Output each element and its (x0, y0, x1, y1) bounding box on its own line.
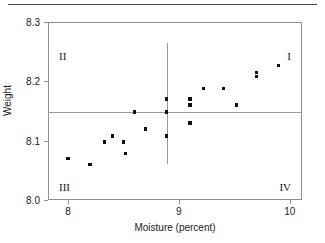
y-tick-8.0 (44, 200, 48, 201)
vertical-reference-line (167, 43, 168, 165)
horizontal-reference-line (48, 112, 302, 113)
quadrant-label-i: I (287, 50, 291, 62)
data-point (277, 64, 280, 67)
data-point (124, 152, 127, 155)
y-tick-8.2 (44, 81, 48, 82)
data-point (222, 87, 225, 90)
y-tick-label-8.3: 8.3 (8, 17, 40, 28)
x-tick-label-8: 8 (65, 206, 71, 217)
y-axis-title: Weight (2, 71, 13, 131)
x-tick-label-10: 10 (284, 206, 295, 217)
data-point (165, 134, 168, 137)
clipped-caption-text (30, 0, 270, 1)
data-point (122, 140, 125, 143)
data-point (235, 103, 238, 106)
scatter-plot-figure: I II III IV 8910 8.08.18.28.3 Moisture (… (0, 0, 325, 243)
x-tick-label-9: 9 (176, 206, 182, 217)
x-tick-8 (68, 200, 69, 204)
quadrant-label-iv: IV (279, 181, 291, 193)
data-point (188, 121, 191, 124)
data-point (165, 97, 168, 100)
data-point (165, 110, 168, 113)
y-tick-8.3 (44, 22, 48, 23)
y-tick-label-8.1: 8.1 (8, 135, 40, 146)
top-horizontal-rule (8, 4, 317, 5)
y-tick-label-8.2: 8.2 (8, 76, 40, 87)
data-point (202, 87, 205, 90)
data-point (188, 103, 191, 106)
data-point (255, 71, 258, 74)
data-point (188, 97, 191, 100)
x-tick-10 (290, 200, 291, 204)
data-point (111, 134, 114, 137)
data-point (88, 163, 91, 166)
y-tick-label-8.0: 8.0 (8, 195, 40, 206)
x-tick-9 (179, 200, 180, 204)
data-point (66, 157, 69, 160)
plot-area: I II III IV (48, 22, 302, 200)
y-tick-8.1 (44, 141, 48, 142)
data-point (103, 140, 106, 143)
quadrant-label-ii: II (59, 50, 66, 62)
data-point (144, 127, 147, 130)
quadrant-label-iii: III (59, 181, 70, 193)
x-axis-title: Moisture (percent) (48, 222, 302, 233)
data-point (255, 75, 258, 78)
data-point (133, 110, 136, 113)
